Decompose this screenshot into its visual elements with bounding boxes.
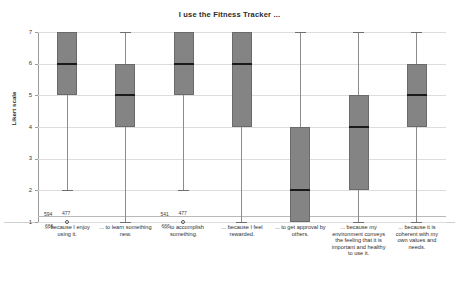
box-iqr: [290, 127, 310, 222]
whisker-cap-lower: [411, 222, 422, 223]
y-tick-label-3: 3: [16, 155, 32, 161]
whisker-lower: [358, 190, 359, 222]
outlier-group-2: 541477666: [155, 32, 213, 222]
outlier-id-label: 594: [44, 211, 52, 217]
whisker-cap-upper: [295, 32, 306, 33]
whisker-cap-upper: [353, 32, 364, 33]
outlier-id-label: 541: [161, 211, 169, 217]
whisker-cap-lower: [353, 222, 364, 223]
box-iqr: [349, 95, 369, 190]
median-line: [290, 189, 310, 191]
x-axis-label-5: ... to get approval by others.: [273, 224, 327, 237]
whisker-upper: [300, 32, 301, 127]
y-tick-label-1: 1: [16, 219, 32, 225]
y-tick-label-2: 2: [16, 187, 32, 193]
x-axis-label-6: ... because my environment conveys the f…: [332, 224, 386, 257]
y-tick-label-6: 6: [16, 60, 32, 66]
boxplot-chart: I use the Fitness Tracker ... Likert sca…: [0, 0, 459, 292]
whisker-cap-lower: [236, 222, 247, 223]
outlier-marker: [181, 220, 185, 224]
x-axis-label-7: ... because it is coherent with my own v…: [390, 224, 444, 250]
y-tick-mark-2: [35, 190, 38, 191]
whisker-lower: [125, 127, 126, 222]
y-tick-mark-1: [35, 222, 38, 223]
x-axis-label-4: ... because I feel rewarded.: [215, 224, 269, 237]
box-plot-5: [271, 32, 329, 222]
x-axis-category-labels: ... because I enjoy using it.... to lear…: [38, 224, 446, 288]
box-plot-4: [213, 32, 271, 222]
median-line: [115, 94, 135, 96]
outlier-id-label: 477: [179, 210, 187, 216]
y-axis-title: Likert scale: [10, 74, 17, 144]
whisker-lower: [416, 127, 417, 222]
box-iqr: [232, 32, 252, 127]
whisker-lower: [241, 127, 242, 222]
box-plot-2: [96, 32, 154, 222]
median-line: [232, 63, 252, 65]
outlier-group-1: 594477666: [38, 32, 96, 222]
whisker-cap-upper: [120, 32, 131, 33]
plot-area: 594477666541477666: [38, 32, 446, 222]
y-tick-mark-4: [35, 127, 38, 128]
y-tick-mark-7: [35, 32, 38, 33]
outlier-id-label: 477: [62, 210, 70, 216]
y-tick-mark-5: [35, 95, 38, 96]
whisker-upper: [125, 32, 126, 64]
box-plot-7: [388, 32, 446, 222]
x-axis-label-1: ... because I enjoy using it.: [40, 224, 94, 237]
whisker-cap-lower: [120, 222, 131, 223]
whisker-upper: [416, 32, 417, 64]
x-axis-label-2: ... to learn something new.: [98, 224, 152, 237]
y-tick-mark-3: [35, 159, 38, 160]
median-line: [407, 94, 427, 96]
y-tick-label-7: 7: [16, 29, 32, 35]
whisker-cap-upper: [411, 32, 422, 33]
x-axis-label-3: ... to accomplish something.: [157, 224, 211, 237]
y-tick-label-4: 4: [16, 124, 32, 130]
y-tick-label-5: 5: [16, 92, 32, 98]
median-line: [349, 126, 369, 128]
whisker-upper: [358, 32, 359, 95]
box-plot-6: [329, 32, 387, 222]
y-tick-mark-6: [35, 64, 38, 65]
chart-title: I use the Fitness Tracker ...: [0, 10, 459, 19]
outlier-marker: [65, 220, 69, 224]
